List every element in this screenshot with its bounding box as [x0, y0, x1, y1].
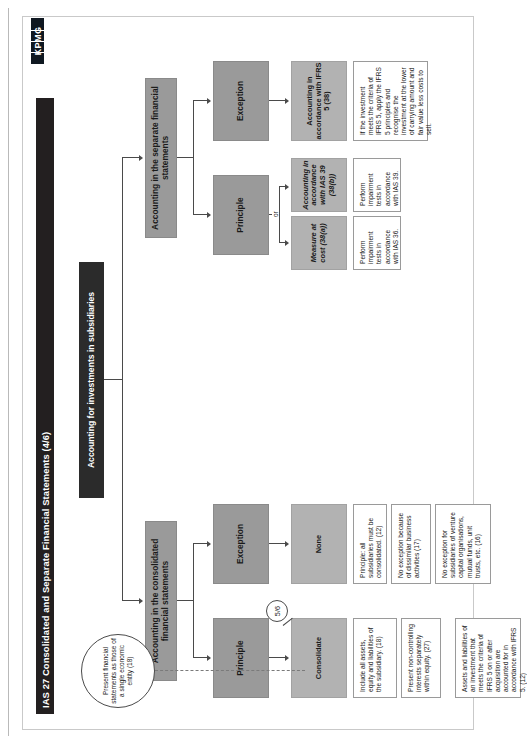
- connector-right-header-stem: [177, 157, 193, 158]
- left-exception-detail-0: Principle: all subsidiaries must be cons…: [353, 504, 387, 584]
- arrow-option-ias39: [285, 184, 289, 190]
- connector-left-header-stem: [177, 600, 193, 601]
- right-exception-label: Exception: [213, 61, 269, 141]
- left-exception-label: Exception: [213, 504, 269, 584]
- page-title: IAS 27 Consolidated and Separate Financi…: [36, 98, 54, 714]
- connector-note-dash-v: [155, 670, 305, 671]
- arrow-to-right-branch: [139, 155, 143, 161]
- page-top-rule: [8, 8, 9, 736]
- right-exception-action: Accounting in accordance with IFRS 5 (38…: [291, 61, 347, 141]
- root-node: Accounting for investments in subsidiari…: [79, 262, 104, 498]
- right-exception-detail: If the investment meets the criteria of …: [353, 61, 428, 141]
- arrow-consolidate: [285, 655, 289, 661]
- arrow-right-exception: [207, 98, 211, 104]
- left-exception-action: None: [291, 504, 347, 584]
- kpmg-logo: KPMG: [31, 18, 44, 64]
- right-principle-label: Principle: [213, 175, 269, 255]
- right-option-0-action: Measure at cost (38(a)): [291, 216, 347, 270]
- right-branch-header: Accounting in the separate financial sta…: [145, 78, 177, 238]
- left-principle-detail-0: Include all assets, equity and liabiliti…: [353, 618, 397, 698]
- connector-root-stem: [104, 379, 122, 380]
- connector-root-split: [122, 158, 123, 601]
- right-option-1-detail: Perform impairment tests in accordance w…: [353, 158, 401, 212]
- arrow-left-exception: [207, 541, 211, 547]
- left-principle-detail-1: Present non-controlling interests separa…: [401, 618, 441, 698]
- connector-right-options-split: [279, 187, 280, 243]
- left-principle-detail-2: Assets and liabilities of an investment …: [455, 618, 521, 698]
- arrow-option-cost: [285, 240, 289, 246]
- connector-left-split: [193, 544, 194, 658]
- arrow-none: [285, 541, 289, 547]
- note-oval: Present financial statements as those of…: [81, 634, 155, 708]
- arrow-right-principle: [207, 212, 211, 218]
- left-exception-detail-1: No exception because of dissimilar busin…: [391, 504, 431, 584]
- reference-badge: 5/6: [266, 600, 288, 622]
- left-exception-detail-2: No exception for subsidiaries of venture…: [435, 504, 491, 584]
- connector-right-split: [193, 101, 194, 215]
- arrow-to-left-branch: [139, 598, 143, 604]
- arrow-left-principle: [207, 655, 211, 661]
- left-principle-action: Consolidate: [291, 618, 347, 698]
- left-principle-label: Principle: [213, 618, 269, 698]
- arrow-right-exception-action: [285, 98, 289, 104]
- right-option-1-action: Accounting in accordance with IAS 39 (38…: [291, 158, 347, 212]
- right-option-0-detail: Perform impairment tests in accordance w…: [353, 216, 401, 270]
- or-label: or: [272, 210, 279, 218]
